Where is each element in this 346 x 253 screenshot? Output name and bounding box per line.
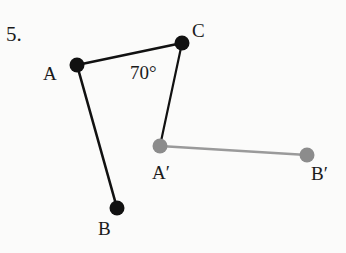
point-b-prime xyxy=(300,148,315,163)
diagram-canvas: 5. A C 70° A′ B′ B xyxy=(0,0,346,253)
label-point-a: A xyxy=(43,64,57,83)
point-a xyxy=(70,58,85,73)
geometry-diagram xyxy=(0,0,346,253)
label-point-a-prime: A′ xyxy=(152,163,170,182)
label-point-b-prime: B′ xyxy=(311,164,328,183)
problem-number: 5. xyxy=(6,24,22,45)
point-c xyxy=(175,36,190,51)
label-point-b: B xyxy=(98,219,111,238)
segment-ab xyxy=(77,65,117,208)
segment-a-prime-b-prime xyxy=(160,146,307,155)
point-b xyxy=(110,201,125,216)
label-point-c: C xyxy=(192,21,205,40)
point-a-prime xyxy=(153,139,168,154)
angle-label: 70° xyxy=(130,63,157,82)
segment-c-a-prime xyxy=(160,43,182,146)
